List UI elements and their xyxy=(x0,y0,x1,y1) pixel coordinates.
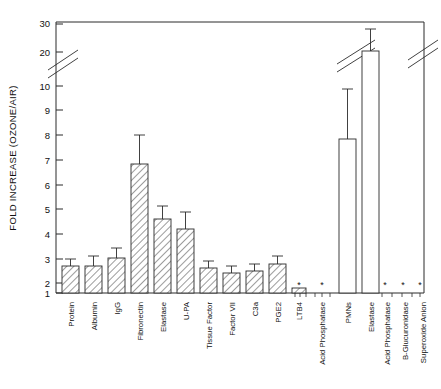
y-tick-30: 30 xyxy=(39,18,50,29)
x-axis-minor-ticks xyxy=(295,293,420,297)
cat-label-superoxide-anion: Superoxide Anion xyxy=(419,302,428,363)
bar-c3a[interactable] xyxy=(246,271,263,293)
y-tick-20: 20 xyxy=(39,47,50,58)
y-tick-3: 3 xyxy=(45,254,50,265)
axis-break-left xyxy=(48,50,78,78)
x-axis-category-labels: Protein Albumin IgG Fibronectin Elastase… xyxy=(67,301,428,365)
asterisk-acid-phosphatase-bal: * xyxy=(320,280,324,290)
bar-albumin[interactable] xyxy=(85,266,102,293)
y-axis-tick-labels: 30 20 10 9 8 7 6 5 4 3 2 1 xyxy=(39,18,50,299)
cat-label-protein: Protein xyxy=(67,302,76,327)
cat-label-igg: IgG xyxy=(113,302,122,315)
y-tick-7: 7 xyxy=(45,155,50,166)
bar-igg[interactable] xyxy=(108,258,125,293)
cat-label-upa: U-PA xyxy=(182,301,191,320)
cat-label-factor-vii: Factor VII xyxy=(228,302,237,336)
y-tick-1: 1 xyxy=(45,288,50,299)
cat-label-c3a: C3a xyxy=(251,301,260,316)
bar-factor-vii[interactable] xyxy=(223,273,240,293)
y-axis-label: FOLD INCREASE (OZONE/AIR) xyxy=(7,85,18,230)
y-tick-10: 10 xyxy=(39,81,50,92)
cat-label-tissue-factor: Tissue Factor xyxy=(205,302,214,349)
cat-label-b-glucuronidase: B-Glucuronidase xyxy=(401,302,410,360)
bar-elastase-pmn[interactable] xyxy=(362,51,379,293)
cat-label-pge2: PGE2 xyxy=(274,302,283,323)
bar-pge2[interactable] xyxy=(269,264,286,293)
bar-elastase-bal[interactable] xyxy=(154,219,171,293)
chart-container: 30 20 10 9 8 7 6 5 4 3 2 1 FOLD INCREASE… xyxy=(0,0,441,389)
cat-label-fibronectin: Fibronectin xyxy=(136,302,145,341)
cat-label-elastase-bal: Elastase xyxy=(159,302,168,332)
y-tick-6: 6 xyxy=(45,180,50,191)
asterisk-b-glucuronidase: * xyxy=(401,280,405,290)
bar-chart-svg: 30 20 10 9 8 7 6 5 4 3 2 1 FOLD INCREASE… xyxy=(0,0,441,389)
bar-fibronectin[interactable] xyxy=(131,164,148,293)
cat-label-elastase-pmn: Elastase xyxy=(367,302,376,332)
below-detection-markers: * * * * * xyxy=(297,280,422,290)
bar-pmns[interactable] xyxy=(339,139,356,293)
cat-label-albumin: Albumin xyxy=(90,302,99,330)
cat-label-acid-phosphatase-pmn: Acid Phosphatase xyxy=(383,302,392,365)
y-tick-4: 4 xyxy=(45,229,50,240)
bar-tissue-factor[interactable] xyxy=(200,268,217,293)
y-tick-9: 9 xyxy=(45,105,50,116)
asterisk-superoxide-anion: * xyxy=(418,280,422,290)
axis-break-right xyxy=(408,40,438,68)
y-tick-5: 5 xyxy=(45,204,50,215)
cat-label-pmns: PMNs xyxy=(344,302,353,323)
bar-upa[interactable] xyxy=(177,229,194,293)
cat-label-acid-phosphatase-bal: Acid Phosphatase xyxy=(318,302,327,365)
asterisk-acid-phosphatase-pmn: * xyxy=(383,280,387,290)
bar-protein[interactable] xyxy=(62,266,79,293)
y-tick-8: 8 xyxy=(45,130,50,141)
bars-group xyxy=(62,29,379,293)
asterisk-ltb4: * xyxy=(297,280,301,290)
cat-label-ltb4: LTB4 xyxy=(295,301,304,320)
